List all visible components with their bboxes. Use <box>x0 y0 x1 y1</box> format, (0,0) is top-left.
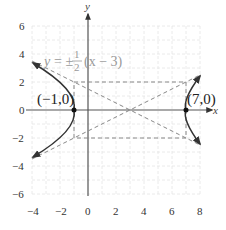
svg-text:−4: −4 <box>27 205 39 217</box>
svg-text:2: 2 <box>113 205 119 217</box>
svg-text:6: 6 <box>19 20 25 32</box>
svg-text:(x − 3): (x − 3) <box>84 54 123 70</box>
x-tick-labels: −4 −2 0 2 4 6 8 <box>27 205 203 217</box>
svg-text:1: 1 <box>74 48 80 60</box>
svg-text:−6: −6 <box>12 188 24 200</box>
svg-text:0: 0 <box>85 205 91 217</box>
asymptote-equation: y = ± 1 2 (x − 3) <box>42 48 123 73</box>
vertex-right-label: (7,0) <box>187 91 216 108</box>
svg-text:−2: −2 <box>55 205 67 217</box>
svg-text:8: 8 <box>197 205 203 217</box>
y-axis-label: y <box>84 0 90 12</box>
svg-text:4: 4 <box>141 205 147 217</box>
svg-text:= ±: = ± <box>54 54 73 69</box>
vertex-left-label: (−1,0) <box>37 91 74 108</box>
svg-text:−2: −2 <box>12 132 24 144</box>
y-tick-labels: 6 4 2 0 −2 −4 −6 <box>12 20 25 200</box>
hyperbola-chart: x y (−1,0) (7,0) y = ± 1 2 (x − 3) −4 −2… <box>0 0 226 230</box>
svg-text:6: 6 <box>169 205 175 217</box>
svg-text:−4: −4 <box>12 160 24 172</box>
vertex-left-point <box>72 108 77 113</box>
svg-text:y: y <box>42 54 51 69</box>
svg-text:4: 4 <box>19 48 25 60</box>
svg-text:2: 2 <box>74 61 80 73</box>
svg-text:0: 0 <box>19 104 25 116</box>
svg-text:2: 2 <box>19 76 25 88</box>
vertex-right-point <box>184 108 189 113</box>
